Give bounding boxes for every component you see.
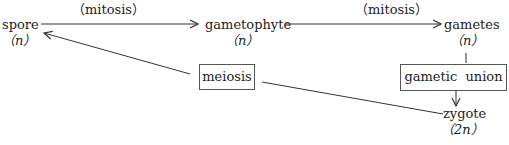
arrow-meiosis-to-spore (44, 33, 190, 74)
spore-node: spore (2, 17, 39, 32)
zygote-node: zygote (443, 106, 486, 121)
zygote-ploidy: （2n） (441, 122, 484, 137)
gametic-union-box: gametic union (400, 64, 507, 91)
mitosis-label-1: （mitosis） (72, 2, 145, 17)
gametophyte-node: gametophyte (205, 17, 291, 32)
gametes-ploidy: （n） (450, 33, 484, 48)
gametes-node: gametes (444, 17, 500, 32)
gametophyte-ploidy: （n） (225, 33, 259, 48)
mitosis-label-2: （mitosis） (355, 2, 428, 17)
spore-ploidy: （n） (2, 33, 36, 48)
meiosis-box: meiosis (199, 64, 255, 90)
